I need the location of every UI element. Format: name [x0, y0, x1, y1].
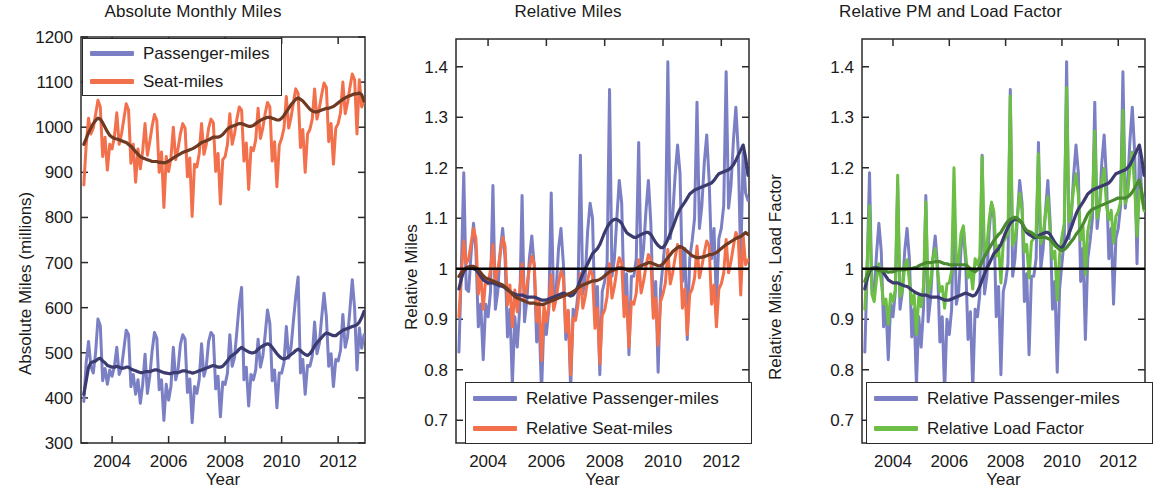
y-tick-label: 1200	[35, 28, 73, 47]
x-tick-label: 2004	[469, 452, 507, 471]
y-tick-label: 0.9	[424, 310, 448, 329]
y-tick-label: 0.9	[830, 310, 854, 329]
legend-label: Seat-miles	[143, 73, 223, 90]
y-tick-label: 0.8	[830, 361, 854, 380]
y-tick-label: 800	[45, 208, 73, 227]
x-tick-label: 2006	[527, 452, 565, 471]
legend-entry[interactable]: Passenger-miles	[83, 39, 281, 67]
y-tick-label: 600	[45, 299, 73, 318]
y-tick-label: 1.2	[830, 159, 854, 178]
legend-color-swatch	[90, 79, 134, 84]
x-tick-label: 2010	[263, 452, 301, 471]
y-tick-label: 1.3	[424, 108, 448, 127]
legend[interactable]: Passenger-milesSeat-miles	[82, 38, 282, 96]
x-tick-label: 2008	[206, 452, 244, 471]
y-tick-label: 1.1	[830, 209, 854, 228]
legend-label: Relative Seat-miles	[526, 420, 672, 437]
y-tick-label: 1.2	[424, 159, 448, 178]
x-tick-label: 2010	[644, 452, 682, 471]
legend-entry[interactable]: Relative Passenger-miles	[867, 383, 1152, 413]
legend[interactable]: Relative Passenger-milesRelative Seat-mi…	[465, 382, 752, 444]
y-tick-label: 900	[45, 163, 73, 182]
y-tick-label: 0.7	[424, 411, 448, 430]
series-group	[456, 62, 749, 393]
y-tick-label: 1.3	[830, 108, 854, 127]
x-tick-label: 2004	[874, 452, 912, 471]
y-tick-label: 0.8	[424, 361, 448, 380]
panel-relative-pm-and-load-factor: Relative PM and Load FactorRelative Mile…	[750, 0, 1151, 495]
panel-relative-miles: Relative MilesRelative MilesYear0.70.80.…	[386, 0, 750, 495]
legend-label: Relative Load Factor	[927, 420, 1084, 437]
y-tick-label: 300	[45, 434, 73, 453]
y-tick-label: 1	[845, 260, 854, 279]
x-tick-label: 2004	[93, 452, 131, 471]
series-line-relative-seat-miles	[459, 228, 748, 374]
y-tick-label: 0.7	[830, 411, 854, 430]
x-tick-label: 2012	[702, 452, 740, 471]
x-tick-label: 2012	[1099, 452, 1137, 471]
legend[interactable]: Relative Passenger-milesRelative Load Fa…	[866, 382, 1153, 444]
legend-color-swatch	[90, 51, 134, 56]
legend-color-swatch	[874, 396, 918, 401]
x-tick-label: 2006	[930, 452, 968, 471]
legend-entry[interactable]: Seat-miles	[83, 67, 281, 95]
y-tick-label: 1.4	[830, 58, 854, 77]
y-tick-label: 1.1	[424, 209, 448, 228]
series-line-relative-passenger-miles	[459, 62, 748, 393]
x-tick-label: 2008	[586, 452, 624, 471]
y-tick-label: 1100	[36, 73, 73, 92]
legend-entry[interactable]: Relative Passenger-miles	[466, 383, 751, 413]
legend-entry[interactable]: Relative Seat-miles	[466, 413, 751, 443]
legend-label: Passenger-miles	[143, 45, 270, 62]
y-tick-label: 700	[45, 254, 73, 273]
x-tick-label: 2010	[1043, 452, 1081, 471]
legend-color-swatch	[473, 426, 517, 431]
series-line-passenger-miles	[84, 277, 364, 423]
y-tick-label: 400	[45, 389, 73, 408]
legend-label: Relative Passenger-miles	[526, 390, 719, 407]
x-tick-label: 2006	[150, 452, 188, 471]
legend-label: Relative Passenger-miles	[927, 390, 1120, 407]
y-tick-label: 500	[45, 344, 73, 363]
y-tick-label: 1	[439, 260, 448, 279]
y-tick-label: 1.4	[424, 58, 448, 77]
series-group	[862, 62, 1145, 393]
legend-color-swatch	[473, 396, 517, 401]
x-tick-label: 2008	[987, 452, 1025, 471]
legend-color-swatch	[874, 426, 918, 431]
panel-absolute-monthly-miles: Absolute Monthly MilesAbsolute Miles (mi…	[0, 0, 386, 495]
x-tick-label: 2012	[319, 452, 357, 471]
series-group	[84, 74, 364, 423]
legend-entry[interactable]: Relative Load Factor	[867, 413, 1152, 443]
y-tick-label: 1000	[35, 118, 73, 137]
